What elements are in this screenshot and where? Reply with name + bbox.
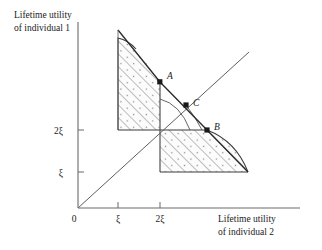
y-axis-label-line1: Lifetime utility <box>14 10 72 20</box>
x-tick-label-2xi: 2ξ <box>156 214 166 225</box>
axes <box>78 22 300 208</box>
x-tick-label-xi: ξ <box>116 214 121 225</box>
y-tick-label-2xi: 2ξ <box>54 126 64 137</box>
figure-container: A C B 2ξ ξ ξ 2ξ 0 Lifetime utility of in… <box>0 0 322 250</box>
point-marker-A <box>157 79 162 84</box>
y-axis-label-line2: of individual 1 <box>14 23 70 33</box>
x-axis-label-line2: of individual 2 <box>218 227 274 237</box>
upper-shaded-region <box>110 25 180 145</box>
x-axis-label-line1: Lifetime utility <box>218 214 276 224</box>
y-tick-label-xi: ξ <box>59 168 64 179</box>
point-marker-C <box>183 102 188 107</box>
point-label-C: C <box>193 98 200 108</box>
point-label-A: A <box>166 71 173 81</box>
origin-label: 0 <box>72 214 77 224</box>
point-marker-B <box>204 127 209 132</box>
forty-five-degree-line <box>78 52 249 208</box>
economics-diagram: A C B 2ξ ξ ξ 2ξ 0 Lifetime utility of in… <box>0 0 322 250</box>
point-label-B: B <box>214 122 220 132</box>
